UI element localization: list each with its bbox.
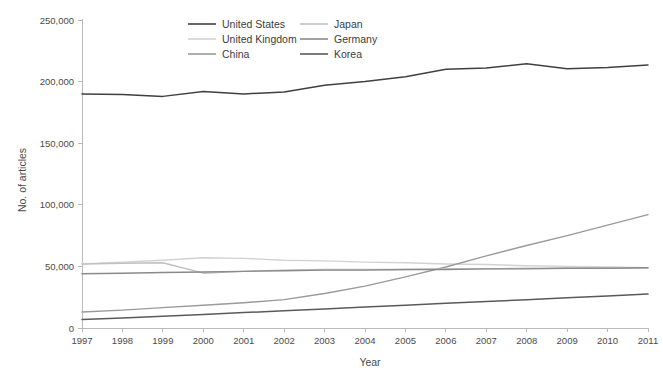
y-tick-label: 50,000 <box>45 261 74 272</box>
chart-container: United StatesJapanUnited KingdomGermanyC… <box>0 0 663 377</box>
y-axis-title: No. of articles <box>16 148 28 212</box>
chart-legend: United StatesJapanUnited KingdomGermanyC… <box>188 18 378 60</box>
legend-label-china: China <box>222 48 250 60</box>
legend-label-united-kingdom: United Kingdom <box>222 33 297 45</box>
legend-label-japan: Japan <box>334 18 363 30</box>
legend-label-korea: Korea <box>334 48 362 60</box>
series-line-united-states <box>82 64 648 97</box>
x-tick-label: 2007 <box>476 335 497 346</box>
x-tick-label: 1999 <box>152 335 173 346</box>
y-tick-label: 100,000 <box>40 199 74 210</box>
legend-label-united-states: United States <box>222 18 285 30</box>
series-line-united-kingdom <box>82 258 648 268</box>
x-tick-label: 2000 <box>193 335 214 346</box>
x-tick-label: 2003 <box>314 335 335 346</box>
y-tick-label: 0 <box>69 323 74 334</box>
legend-label-germany: Germany <box>334 33 378 45</box>
y-tick-label: 150,000 <box>40 138 74 149</box>
x-axis-title: Year <box>359 356 381 368</box>
chart-axes: 050,000100,000150,000200,000250,00019971… <box>40 15 659 347</box>
line-chart: United StatesJapanUnited KingdomGermanyC… <box>0 0 663 377</box>
y-tick-label: 200,000 <box>40 76 74 87</box>
x-tick-label: 1998 <box>112 335 133 346</box>
x-tick-label: 2008 <box>516 335 537 346</box>
y-tick-label: 250,000 <box>40 15 74 26</box>
x-tick-label: 2005 <box>395 335 416 346</box>
x-tick-label: 1997 <box>71 335 92 346</box>
x-tick-label: 2009 <box>557 335 578 346</box>
series-line-germany <box>82 268 648 274</box>
x-tick-label: 2004 <box>354 335 375 346</box>
x-tick-label: 2011 <box>638 335 658 346</box>
x-tick-label: 2006 <box>435 335 456 346</box>
x-tick-label: 2002 <box>274 335 295 346</box>
chart-series <box>82 64 648 320</box>
x-tick-label: 2010 <box>597 335 618 346</box>
x-tick-label: 2001 <box>233 335 254 346</box>
